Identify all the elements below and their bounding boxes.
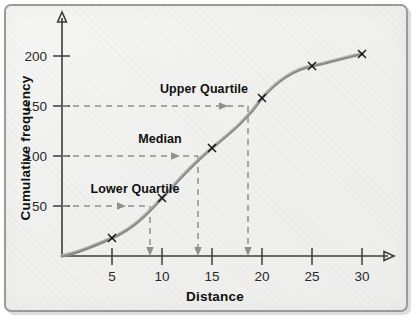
x-tick-label-5: 5 bbox=[108, 269, 116, 284]
x-tick-label-15: 15 bbox=[204, 269, 219, 284]
guide-lower-quartile-arrow bbox=[117, 202, 126, 209]
annotation-median: Median bbox=[138, 132, 182, 146]
x-axis-title: Distance bbox=[186, 289, 244, 304]
x-tick-label-20: 20 bbox=[254, 269, 269, 284]
y-axis bbox=[58, 12, 67, 256]
x-tick-label-30: 30 bbox=[354, 269, 369, 284]
guide-median bbox=[62, 152, 202, 256]
annotation-lower-quartile: Lower Quartile bbox=[91, 182, 180, 196]
guide-lower-quartile bbox=[62, 202, 154, 256]
x-tick-label-10: 10 bbox=[154, 269, 169, 284]
guide-median-arrow-down bbox=[194, 247, 201, 256]
chart-canvas: 50 100 150 200 5 10 15 20 25 30 Distance… bbox=[0, 0, 416, 320]
guide-upper-quartile-arrow-down bbox=[244, 247, 251, 256]
guide-median-arrow bbox=[171, 152, 180, 159]
guide-upper-quartile bbox=[62, 102, 252, 256]
x-tick-label-25: 25 bbox=[304, 269, 319, 284]
y-axis-title: Cumulative frequency bbox=[18, 75, 33, 220]
guide-upper-quartile-arrow bbox=[219, 102, 228, 109]
data-point-15-108 bbox=[208, 144, 216, 152]
annotation-upper-quartile: Upper Quartile bbox=[160, 82, 248, 96]
x-tick-labels: 5 10 15 20 25 30 bbox=[108, 269, 369, 284]
y-tick-label-200: 200 bbox=[24, 49, 47, 64]
data-point-20-158 bbox=[258, 94, 266, 102]
y-tick-label-50: 50 bbox=[32, 199, 47, 214]
guide-lower-quartile-arrow-down bbox=[146, 247, 153, 256]
cumulative-frequency-figure: 50 100 150 200 5 10 15 20 25 30 Distance… bbox=[0, 0, 416, 320]
